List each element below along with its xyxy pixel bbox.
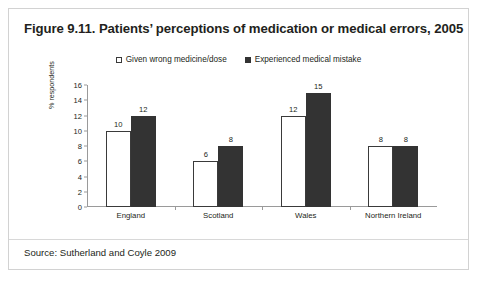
y-axis-title: % respondents	[47, 29, 56, 109]
x-axis-label: England	[87, 211, 175, 220]
x-axis-labels: EnglandScotlandWalesNorthern Ireland	[87, 211, 437, 220]
legend-swatch-open-square-icon	[116, 57, 122, 63]
bar[interactable]: 15	[306, 93, 331, 207]
legend-entry-given-wrong-medicine: Given wrong medicine/dose	[116, 55, 227, 64]
bar-group: 68	[175, 85, 263, 207]
x-tick-mark	[175, 207, 176, 210]
y-tick-label: 8	[78, 142, 82, 151]
bar-value-label: 15	[314, 82, 322, 91]
bar-value-label: 12	[289, 105, 297, 114]
x-axis-label: Scotland	[175, 211, 263, 220]
legend-label-series-2: Experienced medical mistake	[255, 55, 362, 64]
bar[interactable]: 8	[368, 146, 393, 207]
bar-value-label: 8	[379, 135, 383, 144]
bar-value-label: 6	[204, 150, 208, 159]
figure-panel: Figure 9.11. Patients’ perceptions of me…	[8, 8, 469, 270]
y-tick-label: 2	[78, 187, 82, 196]
bar[interactable]: 8	[218, 146, 243, 207]
chart-plot: % respondents 0246810121416 101268121588…	[9, 73, 470, 233]
bar-value-label: 8	[229, 135, 233, 144]
y-tick-label: 6	[78, 157, 82, 166]
bar-value-label: 12	[139, 105, 147, 114]
legend-swatch-filled-square-icon	[245, 57, 251, 63]
bar-group: 1215	[262, 85, 350, 207]
x-tick-mark	[350, 207, 351, 210]
y-tick-label: 10	[74, 126, 82, 135]
legend-entry-experienced-medical-mistake: Experienced medical mistake	[245, 55, 362, 64]
bar-value-label: 8	[404, 135, 408, 144]
bar[interactable]: 8	[393, 146, 418, 207]
x-axis-label: Wales	[262, 211, 350, 220]
bar-groups: 101268121588	[87, 85, 437, 207]
x-tick-mark	[262, 207, 263, 210]
bar-group: 1012	[87, 85, 175, 207]
y-tick-label: 0	[78, 203, 82, 212]
source-divider	[9, 239, 468, 240]
bar-value-label: 10	[114, 120, 122, 129]
bar[interactable]: 12	[281, 116, 306, 208]
chart-legend: Given wrong medicine/dose Experienced me…	[9, 55, 468, 64]
y-tick-label: 12	[74, 111, 82, 120]
bar[interactable]: 10	[106, 131, 131, 207]
bar[interactable]: 6	[193, 161, 218, 207]
y-tick-label: 4	[78, 172, 82, 181]
plot-area: 101268121588	[87, 85, 437, 207]
y-tick-label: 14	[74, 96, 82, 105]
source-note: Source: Sutherland and Coyle 2009	[24, 247, 176, 258]
x-axis-label: Northern Ireland	[350, 211, 438, 220]
y-axis-ticks: 0246810121416	[61, 85, 87, 207]
bar[interactable]: 12	[131, 116, 156, 208]
y-tick-label: 16	[74, 81, 82, 90]
bar-group: 88	[350, 85, 438, 207]
legend-label-series-1: Given wrong medicine/dose	[126, 55, 227, 64]
figure-title: Figure 9.11. Patients’ perceptions of me…	[24, 21, 456, 36]
